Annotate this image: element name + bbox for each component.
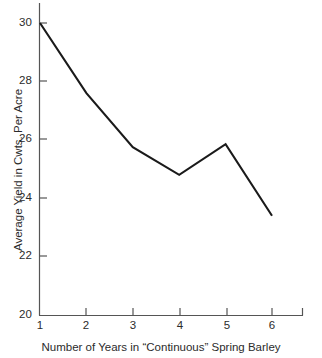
x-tick-label-3: 3 [123, 319, 143, 331]
y-axis-ticks [40, 23, 48, 256]
x-tick-label-5: 5 [217, 319, 237, 331]
x-axis-ticks [86, 308, 272, 316]
y-tick-label-20: 20 [10, 308, 32, 320]
x-axis-title: Number of Years in “Continuous” Spring B… [0, 341, 322, 353]
y-axis-title: Average Yield in Cwts. Per Acre [12, 60, 24, 280]
line-chart-figure: 30 28 26 24 22 20 1 2 3 4 5 6 Average Yi… [0, 0, 322, 358]
plot-canvas [0, 0, 322, 358]
x-tick-label-2: 2 [76, 319, 96, 331]
x-tick-label-1: 1 [30, 319, 50, 331]
yield-data-line [40, 23, 272, 216]
x-tick-label-6: 6 [262, 319, 282, 331]
x-tick-label-4: 4 [170, 319, 190, 331]
y-tick-label-30: 30 [10, 16, 32, 28]
